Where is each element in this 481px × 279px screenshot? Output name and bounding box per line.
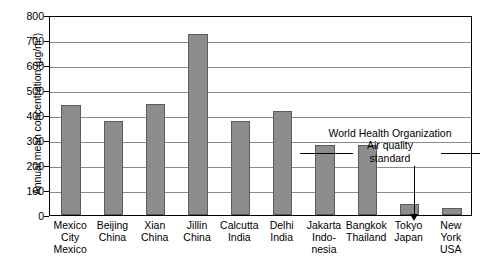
x-axis-label-line: Jillin bbox=[176, 219, 218, 231]
y-tick-label: 500 bbox=[18, 86, 44, 96]
x-axis-label-line: Calcutta bbox=[218, 219, 260, 231]
plot-area bbox=[49, 16, 472, 216]
x-axis-label-line: Bangkok bbox=[345, 219, 387, 231]
bar bbox=[61, 105, 80, 215]
x-axis-label-line: Xian bbox=[134, 219, 176, 231]
y-tick-mark bbox=[44, 216, 49, 217]
y-tick-label: 700 bbox=[18, 36, 44, 46]
x-axis-label-line: China bbox=[176, 231, 218, 243]
x-axis-label: BangkokThailand bbox=[345, 219, 387, 243]
y-tick-label: 300 bbox=[18, 136, 44, 146]
y-tick-label: 100 bbox=[18, 186, 44, 196]
y-tick-label: 400 bbox=[18, 111, 44, 121]
x-axis-label-line: Tokyo bbox=[387, 219, 429, 231]
bar bbox=[400, 204, 419, 215]
y-tick-label: 0 bbox=[18, 211, 44, 221]
bar bbox=[273, 111, 292, 215]
x-axis-label-line: Japan bbox=[387, 231, 429, 243]
gridline bbox=[50, 117, 471, 118]
x-axis-label: MexicoCityMexico bbox=[49, 219, 91, 256]
x-axis-label: XianChina bbox=[134, 219, 176, 243]
x-axis-label-line: India bbox=[261, 231, 303, 243]
x-axis-label: CalcuttaIndia bbox=[218, 219, 260, 243]
x-axis-label-line: Beijing bbox=[91, 219, 133, 231]
bar bbox=[442, 208, 461, 216]
bar bbox=[315, 145, 334, 215]
x-axis-category-labels: MexicoCityMexicoBeijingChinaXianChinaJil… bbox=[49, 219, 472, 277]
x-axis-label: TokyoJapan bbox=[387, 219, 429, 243]
x-axis-label-line: Thailand bbox=[345, 231, 387, 243]
gridline bbox=[50, 67, 471, 68]
x-axis-label: JillinChina bbox=[176, 219, 218, 243]
x-axis-label-line: Jakarta bbox=[303, 219, 345, 231]
x-axis-label-line: York bbox=[430, 231, 472, 243]
x-axis-label: NewYorkUSA bbox=[430, 219, 472, 256]
air-pollution-bar-chart: Annual mean concentration (µg/m3) 800700… bbox=[0, 0, 481, 279]
x-axis-label-line: China bbox=[134, 231, 176, 243]
bar bbox=[104, 121, 123, 215]
bar bbox=[188, 34, 207, 215]
x-axis-label-line: Mexico bbox=[49, 219, 91, 231]
y-tick-label: 200 bbox=[18, 161, 44, 171]
x-axis-label: BeijingChina bbox=[91, 219, 133, 243]
x-axis-label: DelhiIndia bbox=[261, 219, 303, 243]
x-axis-label-line: New bbox=[430, 219, 472, 231]
x-axis-label-line: China bbox=[91, 231, 133, 243]
x-axis-label-line: Indo- bbox=[303, 231, 345, 243]
y-axis-tick-labels: 8007006005004003002001000 bbox=[14, 0, 44, 279]
x-axis-label: JakartaIndo-nesia bbox=[303, 219, 345, 256]
y-tick-label: 600 bbox=[18, 61, 44, 71]
y-tick-label: 800 bbox=[18, 11, 44, 21]
x-axis-label-line: nesia bbox=[303, 243, 345, 255]
bar bbox=[231, 121, 250, 215]
x-axis-label-line: India bbox=[218, 231, 260, 243]
bar bbox=[358, 145, 377, 216]
gridline bbox=[50, 92, 471, 93]
bar bbox=[146, 104, 165, 216]
x-axis-label-line: USA bbox=[430, 243, 472, 255]
x-axis-label-line: City bbox=[49, 231, 91, 243]
gridline bbox=[50, 42, 471, 43]
x-axis-label-line: Mexico bbox=[49, 243, 91, 255]
x-axis-label-line: Delhi bbox=[261, 219, 303, 231]
